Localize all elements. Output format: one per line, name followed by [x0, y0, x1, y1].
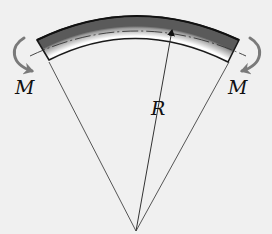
curved-beam: [37, 16, 239, 62]
moment-arrow-left-icon: [14, 38, 32, 71]
moment-arrow-right-icon: [242, 38, 260, 71]
radial-lines: [49, 62, 229, 231]
moment-label-right: M: [228, 78, 247, 97]
moment-label-left: M: [15, 78, 34, 97]
radius-label: R: [151, 99, 165, 118]
radius-arrow: [136, 30, 172, 231]
radial-line-right: [136, 62, 229, 231]
beam-bending-diagram: [0, 0, 272, 234]
radial-line-left: [49, 62, 136, 231]
